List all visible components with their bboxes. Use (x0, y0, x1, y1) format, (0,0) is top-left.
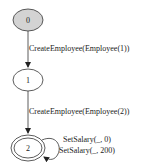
state-node-0: 0 (13, 9, 43, 31)
transition-label: CreateEmployee(Employee(2)) (29, 107, 130, 116)
transition-2-2: SetSalary(_, 0) SetSalary(_, 200) (42, 135, 115, 159)
state-node-1: 1 (13, 69, 43, 91)
transition-label: SetSalary(_, 200) (59, 146, 115, 155)
state-label-0: 0 (26, 16, 30, 25)
transition-label: CreateEmployee(Employee(1)) (29, 44, 130, 53)
state-label-1: 1 (26, 76, 30, 85)
state-diagram: 0 CreateEmployee(Employee(1)) 1 CreateEm… (0, 0, 148, 167)
state-label-2: 2 (26, 144, 30, 153)
transition-1-2: CreateEmployee(Employee(2)) (28, 91, 130, 133)
transition-label: SetSalary(_, 0) (63, 135, 111, 144)
state-node-2: 2 (11, 135, 45, 161)
transition-0-1: CreateEmployee(Employee(1)) (28, 31, 130, 67)
